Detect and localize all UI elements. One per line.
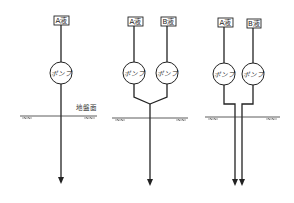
arrow-down-icon <box>58 177 64 184</box>
injection-pipe-b <box>242 85 253 180</box>
pump-a: ポンプ <box>123 62 146 84</box>
panel-single-liquid: A液 ポンプ 地盤面 <box>20 16 97 184</box>
source-a-label: A液 <box>56 16 68 25</box>
source-b-box: B液 <box>161 17 176 26</box>
pump: ポンプ <box>50 62 73 84</box>
source-a-box: A液 <box>128 17 143 26</box>
pump-label: ポンプ <box>51 70 73 78</box>
pump-a: ポンプ <box>213 63 236 85</box>
ground-hatch-icon <box>22 117 95 119</box>
source-a-box: A液 <box>218 18 233 27</box>
ground-surface-label: 地盤面 <box>76 103 97 112</box>
source-a-label: A液 <box>220 18 232 27</box>
arrow-down-icon <box>147 179 153 186</box>
source-a-label: A液 <box>130 17 142 26</box>
arrow-down-icon <box>232 179 238 186</box>
injection-diagram: A液 ポンプ 地盤面 A液 B液 <box>0 0 294 203</box>
injection-pipe-a <box>224 85 235 180</box>
pump-label: ポンプ <box>214 71 236 79</box>
pump-label: ポンプ <box>124 70 146 78</box>
arrow-down-icon <box>239 179 245 186</box>
source-a-box: A液 <box>54 16 69 25</box>
panel-two-liquid-merged: A液 B液 ポンプ ポンプ <box>112 17 188 186</box>
pump-b: ポンプ <box>156 62 179 84</box>
pump-label: ポンプ <box>157 70 179 78</box>
pump-label: ポンプ <box>243 71 265 79</box>
panel-two-liquid-separate: A液 B液 ポンプ ポンプ <box>205 18 280 186</box>
merge-pipe-a <box>134 84 150 104</box>
source-b-label: B液 <box>248 19 260 28</box>
pump-b: ポンプ <box>242 63 265 85</box>
source-b-box: B液 <box>247 19 261 28</box>
source-b-label: B液 <box>163 17 175 26</box>
merge-pipe-b <box>150 84 167 104</box>
